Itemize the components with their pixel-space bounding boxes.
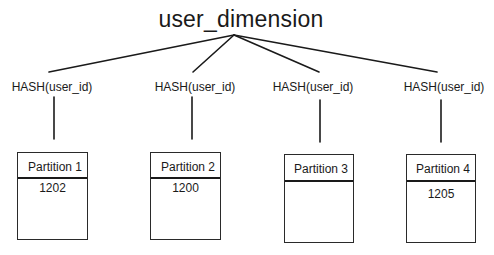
partition-label-3: Partition 3 [285,155,353,182]
table-title: user_dimension [0,6,494,33]
partition-value-2: 1200 [151,181,220,195]
partition-box-2: Partition 2 1200 [150,152,221,240]
hash-label-3: HASH(user_id) [273,80,354,94]
partition-value-4: 1205 [407,187,475,201]
table-title-text: user_dimension [158,6,323,32]
partition-label-2: Partition 2 [151,153,220,179]
fan-line-3 [234,35,319,72]
partition-label-1: Partition 1 [18,153,87,179]
partition-box-1: Partition 1 1202 [17,152,88,240]
partition-value-1: 1202 [18,181,87,195]
partition-label-4: Partition 4 [407,155,475,182]
fan-line-2 [193,35,234,72]
partition-box-4: Partition 4 1205 [406,154,476,243]
hash-label-4: HASH(user_id) [404,80,485,94]
hash-label-2: HASH(user_id) [155,80,236,94]
fan-line-4 [234,35,437,72]
partition-box-3: Partition 3 [284,154,354,243]
hash-label-1: HASH(user_id) [12,80,93,94]
partition-diagram: user_dimension HASH(user_id) HASH(user_i… [0,0,494,255]
fan-line-1 [49,35,234,72]
